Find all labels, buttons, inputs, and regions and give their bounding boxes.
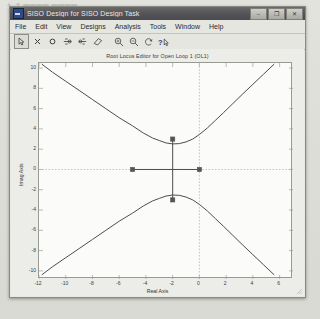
zoom-in-icon[interactable] (112, 35, 125, 48)
resize-grip-icon[interactable] (296, 288, 303, 295)
y-tick-label-6: -2 (32, 186, 36, 192)
menubar: File Edit View Designs Analysis Tools Wi… (10, 20, 305, 34)
matlab-figure-icon (13, 8, 24, 19)
root-locus-axes[interactable] (38, 62, 292, 278)
x-tick-label-4: -4 (143, 280, 147, 286)
context-help-icon[interactable]: ? (157, 35, 170, 48)
delete-pole-zero-icon[interactable] (91, 35, 104, 48)
maximize-icon: ❐ (269, 11, 284, 17)
add-lead-network-icon[interactable] (61, 35, 74, 48)
plot-title: Root Locus Editor for Open Loop 1 (OL1) (11, 53, 304, 59)
zoom-out-icon[interactable] (127, 35, 140, 48)
x-tick-label-6: 0 (197, 280, 200, 286)
menu-item-view[interactable]: View (56, 23, 71, 30)
y-tick-label-5: 0 (33, 165, 36, 171)
root-locus-plot (39, 63, 293, 279)
figure-panel: Root Locus Editor for Open Loop 1 (OL1) … (11, 49, 304, 296)
menu-item-file[interactable]: File (15, 23, 26, 30)
y-tick-label-1: 8 (33, 84, 36, 90)
locus-branch-lower (42, 195, 275, 275)
close-icon: ✕ (287, 11, 302, 17)
menu-item-help[interactable]: Help (209, 23, 223, 30)
x-tick-label-2: -8 (89, 280, 93, 286)
x-tick-label-1: -10 (61, 280, 68, 286)
window-titlebar[interactable]: SISO Design for SISO Design Task – ❐ ✕ (10, 7, 305, 20)
add-pole-icon[interactable] (31, 35, 44, 48)
minimize-icon: – (251, 11, 266, 17)
siso-design-window: SISO Design for SISO Design Task – ❐ ✕ F… (9, 6, 306, 298)
y-tick-label-0: 10 (30, 64, 36, 70)
x-tick-label-3: -6 (116, 280, 120, 286)
pole-marker-lower (171, 198, 175, 202)
y-tick-label-9: -8 (32, 247, 36, 253)
x-tick-label-5: -2 (169, 280, 173, 286)
menu-item-edit[interactable]: Edit (35, 23, 47, 30)
y-tick-label-4: 2 (33, 145, 36, 151)
pole-marker-upper (171, 137, 175, 141)
pole-marker-real-left (130, 167, 134, 171)
menu-item-analysis[interactable]: Analysis (115, 23, 141, 30)
x-tick-label-7: 2 (224, 280, 227, 286)
close-button[interactable]: ✕ (286, 8, 303, 20)
y-tick-label-7: -4 (32, 206, 36, 212)
menu-item-window[interactable]: Window (175, 23, 200, 30)
maximize-button[interactable]: ❐ (268, 8, 285, 20)
x-tick-label-0: -12 (34, 280, 41, 286)
menu-item-tools[interactable]: Tools (150, 23, 166, 30)
reset-view-icon[interactable] (142, 35, 155, 48)
y-tick-label-8: -6 (32, 226, 36, 232)
y-axis-label: Imag Axis (18, 164, 24, 187)
toolbar: ? (10, 34, 305, 50)
pole-marker-real-right (197, 167, 201, 171)
locus-branch-upper (42, 64, 275, 144)
y-tick-label-2: 6 (33, 105, 36, 111)
add-zero-icon[interactable] (46, 35, 59, 48)
window-title: SISO Design for SISO Design Task (27, 10, 249, 17)
x-tick-label-9: 6 (277, 280, 280, 286)
y-tick-label-3: 4 (33, 125, 36, 131)
svg-text:?: ? (158, 37, 163, 46)
add-lag-network-icon[interactable] (76, 35, 89, 48)
x-tick-label-8: 4 (251, 280, 254, 286)
menu-item-designs[interactable]: Designs (80, 23, 105, 30)
minimize-button[interactable]: – (250, 8, 267, 20)
y-tick-label-10: -10 (29, 267, 36, 273)
pointer-arrow-icon[interactable] (14, 34, 29, 49)
x-axis-label: Real Axis (11, 288, 304, 294)
